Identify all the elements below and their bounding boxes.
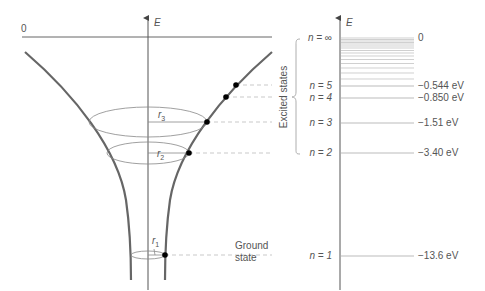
- zero-label: 0: [21, 23, 27, 34]
- level-n-5: n = 5: [309, 80, 332, 91]
- excited-states-label: Excited states: [278, 66, 289, 128]
- energy-value-inf: 0: [418, 32, 424, 43]
- r3-label: r3: [158, 109, 165, 122]
- r1-label: r1: [152, 235, 159, 248]
- energy-level-diagram: 0 E r3 r2 r1: [0, 0, 485, 291]
- energy-value-1: −13.6 eV: [418, 250, 459, 261]
- level-n-4: n = 4: [309, 92, 332, 103]
- level-n-1: n = 1: [309, 250, 332, 261]
- potential-well-panel: 0 E r3 r2 r1: [21, 17, 272, 290]
- ground-state-label: Groundstate: [235, 240, 268, 263]
- continuum-lines: [341, 38, 414, 79]
- level-n-inf: n = ∞: [308, 32, 332, 43]
- level-n-2: n = 2: [309, 147, 332, 158]
- level-n-3: n = 3: [309, 117, 332, 128]
- energy-value-5: −0.544 eV: [418, 80, 464, 91]
- level-lines: [341, 86, 414, 256]
- excited-states-bracket: [292, 39, 300, 154]
- right-axis-label: E: [346, 17, 353, 28]
- energy-levels-panel: E n = ∞ n =: [278, 17, 464, 290]
- r2-label: r2: [157, 148, 164, 161]
- energy-dashed-lines: [165, 85, 272, 255]
- energy-value-4: −0.850 eV: [418, 92, 464, 103]
- left-axis-label: E: [154, 17, 161, 28]
- potential-curve-left: [25, 52, 131, 280]
- energy-value-3: −1.51 eV: [418, 117, 459, 128]
- energy-value-2: −3.40 eV: [418, 147, 459, 158]
